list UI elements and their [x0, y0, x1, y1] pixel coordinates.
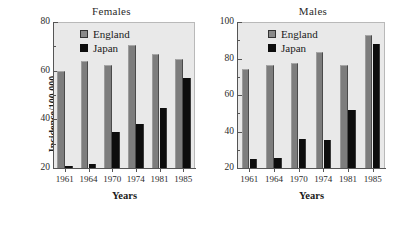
y-tick-minor: [53, 46, 56, 47]
bar-japan-1981: [348, 110, 356, 168]
x-tick: [249, 169, 250, 172]
x-tick: [112, 169, 113, 172]
legend-item-england: England: [268, 27, 318, 40]
x-tick: [160, 169, 161, 172]
bar-japan-1974: [136, 124, 144, 168]
x-tick-label-1970: 1970: [100, 174, 124, 184]
y-tick-major: [237, 59, 242, 60]
x-tick-label-1964: 1964: [262, 174, 286, 184]
legend-swatch-japan-icon: [80, 44, 88, 52]
x-tick-label-1985: 1985: [171, 174, 195, 184]
legend-label-japan: Japan: [281, 42, 306, 54]
x-tick: [183, 169, 184, 172]
y-tick-major: [53, 22, 58, 23]
x-tick: [274, 169, 275, 172]
panel-title-females: Females: [0, 5, 205, 17]
y-tick-minor: [237, 113, 240, 114]
y-tick-label: 60: [225, 89, 235, 99]
x-axis-line-females: [53, 168, 196, 169]
bar-japan-1961: [250, 159, 258, 168]
x-tick-label-1974: 1974: [311, 174, 335, 184]
x-tick-label-1974: 1974: [124, 174, 148, 184]
y-tick-label: 80: [41, 16, 51, 26]
bar-england-1985: [365, 35, 373, 168]
legend-swatch-japan-icon: [268, 44, 276, 52]
x-tick-label-1964: 1964: [77, 174, 101, 184]
x-tick: [323, 169, 324, 172]
legend-males: England Japan: [268, 27, 318, 55]
x-tick-label-1961: 1961: [53, 174, 77, 184]
bar-england-1974: [316, 52, 324, 168]
x-axis-label-females: Years: [53, 190, 196, 201]
y-tick-label: 20: [41, 162, 51, 172]
legend-label-japan: Japan: [93, 42, 118, 54]
legend-label-england: England: [281, 28, 318, 40]
legend-label-england: England: [93, 28, 130, 40]
legend-item-japan: Japan: [80, 41, 130, 54]
x-tick-label-1985: 1985: [361, 174, 385, 184]
panel-title-males: Males: [205, 5, 411, 17]
x-tick: [65, 169, 66, 172]
y-tick-label: 40: [41, 113, 51, 123]
x-tick-label-1970: 1970: [287, 174, 311, 184]
legend-swatch-england-icon: [80, 30, 88, 38]
bar-japan-1964: [89, 164, 97, 168]
x-tick-label-1981: 1981: [148, 174, 172, 184]
y-tick-minor: [237, 77, 240, 78]
legend-item-japan: Japan: [268, 41, 318, 54]
y-tick-minor: [53, 144, 56, 145]
x-tick-label-1961: 1961: [237, 174, 261, 184]
bar-england-1981: [340, 65, 348, 168]
bar-england-1961: [57, 71, 65, 168]
x-tick-label-1981: 1981: [336, 174, 360, 184]
y-tick-label: 40: [225, 126, 235, 136]
bar-england-1970: [291, 63, 299, 168]
bar-japan-1970: [112, 132, 120, 169]
figure-incidence-by-sex: Females Incidence/100 000 20406080 19611…: [0, 0, 411, 228]
bar-japan-1985: [373, 44, 381, 168]
bar-england-1985: [175, 59, 183, 169]
bar-japan-1981: [160, 108, 168, 168]
x-axis-label-males: Years: [237, 190, 386, 201]
y-tick-minor: [237, 40, 240, 41]
bar-england-1981: [152, 54, 160, 168]
bar-japan-1974: [324, 140, 332, 168]
panel-males: Males 20406080100 1961196419701974198119…: [205, 0, 411, 228]
x-tick: [348, 169, 349, 172]
legend-swatch-england-icon: [268, 30, 276, 38]
bar-japan-1985: [183, 78, 191, 168]
bar-japan-1970: [299, 139, 307, 168]
bar-england-1974: [128, 45, 136, 168]
bar-england-1964: [266, 65, 274, 168]
panel-females: Females Incidence/100 000 20406080 19611…: [0, 0, 205, 228]
bar-england-1970: [104, 65, 112, 168]
y-tick-minor: [53, 95, 56, 96]
legend-females: England Japan: [80, 27, 130, 55]
bar-japan-1961: [65, 166, 73, 168]
bar-england-1961: [242, 69, 250, 168]
x-tick: [299, 169, 300, 172]
bar-england-1964: [81, 61, 89, 168]
x-tick: [89, 169, 90, 172]
y-tick-label: 100: [220, 16, 234, 26]
y-tick-label: 80: [225, 53, 235, 63]
bar-japan-1964: [274, 158, 282, 168]
x-tick: [373, 169, 374, 172]
x-axis-line-males: [237, 168, 386, 169]
y-tick-major: [53, 168, 58, 169]
x-tick: [136, 169, 137, 172]
y-tick-major: [237, 168, 242, 169]
y-tick-label: 20: [225, 162, 235, 172]
legend-item-england: England: [80, 27, 130, 40]
y-tick-major: [237, 22, 242, 23]
y-tick-minor: [237, 150, 240, 151]
y-tick-label: 60: [41, 65, 51, 75]
